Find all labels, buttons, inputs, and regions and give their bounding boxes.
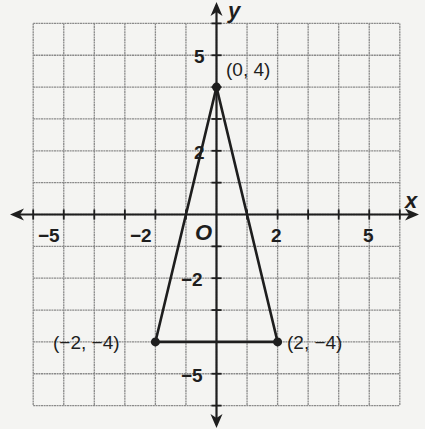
vertex-point <box>212 83 221 92</box>
y-tick-label: −5 <box>181 365 203 386</box>
point-label-right: (2, −4) <box>287 332 342 353</box>
vertex-point <box>151 337 160 346</box>
coordinate-plane: x y O −5 −2 2 5 5 2 −2 −5 (0, 4) (−2, −4… <box>0 0 425 429</box>
x-tick-label: 2 <box>271 225 282 246</box>
origin-label: O <box>195 220 212 245</box>
point-label-left: (−2, −4) <box>53 332 120 353</box>
axes <box>10 2 419 428</box>
y-axis-label: y <box>227 0 242 23</box>
point-label-apex: (0, 4) <box>226 59 270 80</box>
x-tick-label: −2 <box>130 225 152 246</box>
y-tick-label: 5 <box>194 46 205 67</box>
x-axis-label: x <box>404 188 418 213</box>
vertex-point <box>273 337 282 346</box>
x-tick-label: −5 <box>38 225 60 246</box>
x-tick-label: 5 <box>363 225 374 246</box>
y-tick-label: 2 <box>194 142 205 163</box>
y-tick-label: −2 <box>181 269 203 290</box>
